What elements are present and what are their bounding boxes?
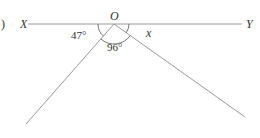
arc-x — [126, 24, 129, 33]
arc-47 — [98, 24, 103, 36]
right-ray — [114, 24, 245, 117]
point-y-label: Y — [246, 17, 254, 31]
angle-96-label: 96° — [107, 41, 122, 53]
angle-x-label: x — [145, 26, 152, 40]
part-label: ) — [1, 17, 5, 31]
angle-47-label: 47° — [71, 29, 86, 41]
angle-diagram: ) X Y O 47° 96° x — [0, 0, 260, 138]
point-x-label: X — [19, 17, 28, 31]
point-o-label: O — [110, 9, 119, 23]
